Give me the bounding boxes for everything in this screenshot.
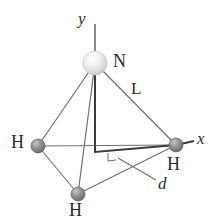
atom-hydrogen-left	[31, 139, 45, 153]
hydrogen-left-label: H	[11, 133, 24, 151]
y-axis-label: y	[78, 10, 86, 27]
bond-n-to-h-left	[38, 63, 95, 146]
nitrogen-label: N	[113, 52, 126, 70]
atom-hydrogen-right	[169, 138, 183, 152]
atom-hydrogen-bottom	[71, 187, 85, 201]
atom-nitrogen	[83, 51, 107, 75]
bond-length-label: L	[131, 80, 141, 97]
d-leader-line	[118, 158, 156, 180]
right-angle-marker	[108, 153, 116, 161]
edge-h-left-to-h-bottom	[38, 146, 78, 194]
perpendicular-distance-label: d	[158, 175, 167, 192]
hydrogen-right-label: H	[167, 155, 180, 173]
bond-n-to-h-right	[95, 63, 176, 145]
bond-n-to-h-bottom	[78, 63, 95, 194]
height-drop-line	[95, 63, 176, 152]
x-axis-label: x	[197, 130, 205, 147]
molecule-diagram-canvas	[0, 0, 217, 220]
ammonia-geometry-figure: y N L H x H d H	[0, 0, 217, 220]
hydrogen-bottom-label: H	[69, 201, 82, 219]
